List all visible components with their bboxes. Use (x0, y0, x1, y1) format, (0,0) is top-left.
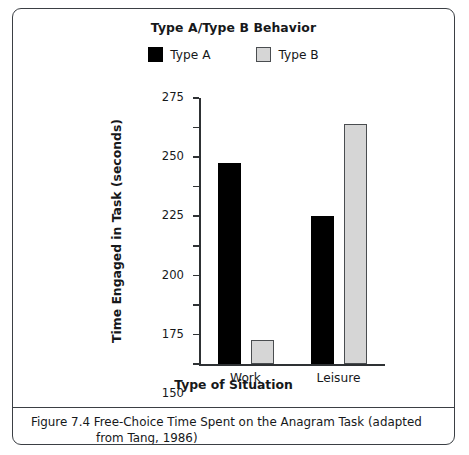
x-axis-title: Type of Situation (13, 377, 454, 392)
y-axis-tick: 125 (193, 275, 199, 277)
y-axis-tick-label: 200 (162, 268, 184, 282)
y-axis-tick-label: 175 (162, 327, 184, 341)
chart-region: Type A/Type B Behavior Type A Type B 507… (13, 9, 454, 398)
legend-label-type-a: Type A (170, 48, 210, 62)
y-axis-tick: 200 (193, 186, 199, 188)
y-axis-line (199, 98, 201, 364)
y-axis-tick-label: 250 (162, 149, 184, 163)
figure-frame: Type A/Type B Behavior Type A Type B 507… (12, 8, 455, 445)
y-axis-tick: 75 (193, 334, 199, 336)
caption-divider (13, 407, 454, 408)
y-axis-tick: 175 (193, 215, 199, 217)
y-axis-tick: 275 (193, 97, 199, 99)
y-axis-tick: 150 (193, 245, 199, 247)
caption-line-2: from Tang, 1986) (31, 431, 439, 445)
y-axis-tick: 50 (193, 363, 199, 365)
bar-work-type-a (218, 163, 241, 364)
y-axis-tick: 250 (193, 127, 199, 129)
figure-caption: Figure 7.4 Free-Choice Time Spent on the… (31, 415, 439, 445)
legend-label-type-b: Type B (278, 48, 318, 62)
legend-entry-type-a: Type A (148, 47, 210, 62)
y-axis-tick: 100 (193, 304, 199, 306)
x-axis-line (199, 364, 385, 366)
y-axis-tick-label: 275 (162, 90, 184, 104)
bar-leisure-type-b (344, 124, 367, 364)
plot-area: 5075100125150175200225250275 WorkLeisure (199, 98, 385, 364)
bar-work-type-b (251, 340, 274, 364)
y-axis-title: Time Engaged in Task (seconds) (109, 98, 127, 364)
legend-swatch-icon-type-a (148, 47, 163, 62)
y-axis-tick: 225 (193, 156, 199, 158)
bar-leisure-type-a (311, 216, 334, 364)
legend-swatch-icon-type-b (256, 47, 271, 62)
chart-title: Type A/Type B Behavior (13, 20, 454, 35)
caption-line-1: Figure 7.4 Free-Choice Time Spent on the… (31, 415, 439, 431)
y-axis-tick-label: 225 (162, 208, 184, 222)
chart-legend: Type A Type B (13, 47, 454, 62)
legend-entry-type-b: Type B (256, 47, 318, 62)
